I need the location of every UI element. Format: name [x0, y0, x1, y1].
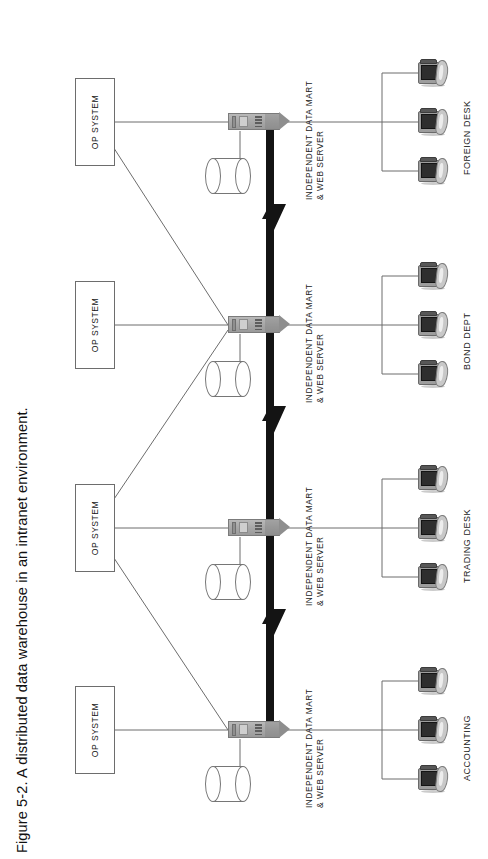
database-cylinder-icon-1[interactable]: [205, 158, 251, 194]
monitor-top-bezel: [420, 108, 437, 113]
monitor-top-bezel: [420, 514, 437, 519]
server-drive-bay: [239, 724, 248, 735]
server-icon-3[interactable]: [228, 519, 290, 536]
server-front-bezel: [279, 315, 290, 333]
database-cylinder-icon-4[interactable]: [205, 766, 251, 802]
monitor-top-bezel: [420, 157, 437, 162]
data-mart-label-1: INDEPENDENT DATA MART & WEB SERVER: [304, 81, 326, 200]
server-front-bezel: [279, 112, 290, 130]
workstation-icon[interactable]: [418, 666, 448, 696]
server-panel-shade: [265, 316, 279, 333]
hand-icon: [435, 59, 450, 86]
cylinder-cap-left: [205, 361, 221, 397]
monitor-top-bezel: [420, 311, 437, 316]
workstation-icon[interactable]: [418, 156, 448, 186]
hand-icon: [435, 157, 450, 184]
server-panel-shade: [265, 519, 279, 536]
hand-icon: [435, 262, 450, 289]
cylinder-cap-left: [205, 564, 221, 600]
server-led-strip: [255, 724, 262, 735]
workstation-icon[interactable]: [418, 107, 448, 137]
workstation-icon[interactable]: [418, 310, 448, 340]
data-mart-label-4: INDEPENDENT DATA MART & WEB SERVER: [304, 689, 326, 808]
server-front-bezel: [279, 518, 290, 536]
server-slot: [232, 319, 236, 331]
hand-icon: [435, 360, 450, 387]
database-cylinder-icon-2[interactable]: [205, 361, 251, 397]
department-label-bond-dept: BOND DEPT: [462, 313, 474, 370]
cylinder-cap-right: [235, 766, 251, 802]
server-icon-1[interactable]: [228, 113, 290, 130]
data-mart-label-line2: & WEB SERVER: [315, 284, 326, 403]
workstation-icon[interactable]: [418, 58, 448, 88]
monitor-top-bezel: [420, 262, 437, 267]
data-mart-label-line2: & WEB SERVER: [315, 487, 326, 606]
hand-icon: [435, 514, 450, 541]
monitor-top-bezel: [420, 465, 437, 470]
server-drive-bay: [239, 116, 248, 127]
monitor-top-bezel: [420, 765, 437, 770]
workstation-icon[interactable]: [418, 562, 448, 592]
monitor-top-bezel: [420, 667, 437, 672]
hand-icon: [435, 563, 450, 590]
op-system-box-2[interactable]: OP SYSTEM: [75, 281, 115, 369]
server-panel-shade: [265, 721, 279, 738]
data-mart-label-2: INDEPENDENT DATA MART & WEB SERVER: [304, 284, 326, 403]
workstation-icon[interactable]: [418, 715, 448, 745]
hand-icon: [435, 765, 450, 792]
server-slot: [232, 116, 236, 128]
department-label-accounting: ACCOUNTING: [462, 715, 474, 781]
hand-icon: [435, 311, 450, 338]
hand-icon: [435, 716, 450, 743]
data-mart-label-3: INDEPENDENT DATA MART & WEB SERVER: [304, 487, 326, 606]
monitor-top-bezel: [420, 563, 437, 568]
data-mart-label-line1: INDEPENDENT DATA MART: [304, 284, 315, 403]
server-led-strip: [255, 116, 262, 127]
monitor-top-bezel: [420, 59, 437, 64]
op-system-label: OP SYSTEM: [90, 298, 100, 353]
hand-icon: [435, 465, 450, 492]
data-mart-label-line2: & WEB SERVER: [315, 81, 326, 200]
department-label-trading-desk: TRADING DESK: [462, 509, 474, 583]
server-drive-bay: [239, 522, 248, 533]
monitor-top-bezel: [420, 716, 437, 721]
cylinder-cap-right: [235, 564, 251, 600]
op-system-label: OP SYSTEM: [90, 703, 100, 758]
cylinder-cap-left: [205, 766, 221, 802]
hand-icon: [435, 667, 450, 694]
data-mart-label-line2: & WEB SERVER: [315, 689, 326, 808]
server-icon-2[interactable]: [228, 316, 290, 333]
op-system-box-1[interactable]: OP SYSTEM: [75, 78, 115, 166]
workstation-icon[interactable]: [418, 764, 448, 794]
workstation-icon[interactable]: [418, 359, 448, 389]
server-slot: [232, 522, 236, 534]
server-slot: [232, 724, 236, 736]
server-panel-shade: [265, 113, 279, 130]
department-label-foreign-desk: FOREIGN DESK: [462, 100, 474, 175]
cylinder-cap-right: [235, 158, 251, 194]
server-led-strip: [255, 522, 262, 533]
hand-icon: [435, 108, 450, 135]
op-system-label: OP SYSTEM: [90, 501, 100, 556]
op-system-label: OP SYSTEM: [90, 95, 100, 150]
workstation-icon[interactable]: [418, 261, 448, 291]
op-system-box-3[interactable]: OP SYSTEM: [75, 484, 115, 572]
workstation-icon[interactable]: [418, 513, 448, 543]
data-mart-label-line1: INDEPENDENT DATA MART: [304, 689, 315, 808]
figure-diagram: Figure 5-2. A distributed data warehouse…: [0, 0, 488, 859]
server-drive-bay: [239, 319, 248, 330]
server-front-bezel: [279, 720, 290, 738]
data-mart-label-line1: INDEPENDENT DATA MART: [304, 81, 315, 200]
monitor-top-bezel: [420, 360, 437, 365]
server-icon-4[interactable]: [228, 721, 290, 738]
data-mart-label-line1: INDEPENDENT DATA MART: [304, 487, 315, 606]
server-led-strip: [255, 319, 262, 330]
database-cylinder-icon-3[interactable]: [205, 564, 251, 600]
cylinder-cap-right: [235, 361, 251, 397]
op-system-box-4[interactable]: OP SYSTEM: [75, 686, 115, 774]
workstation-icon[interactable]: [418, 464, 448, 494]
cylinder-cap-left: [205, 158, 221, 194]
